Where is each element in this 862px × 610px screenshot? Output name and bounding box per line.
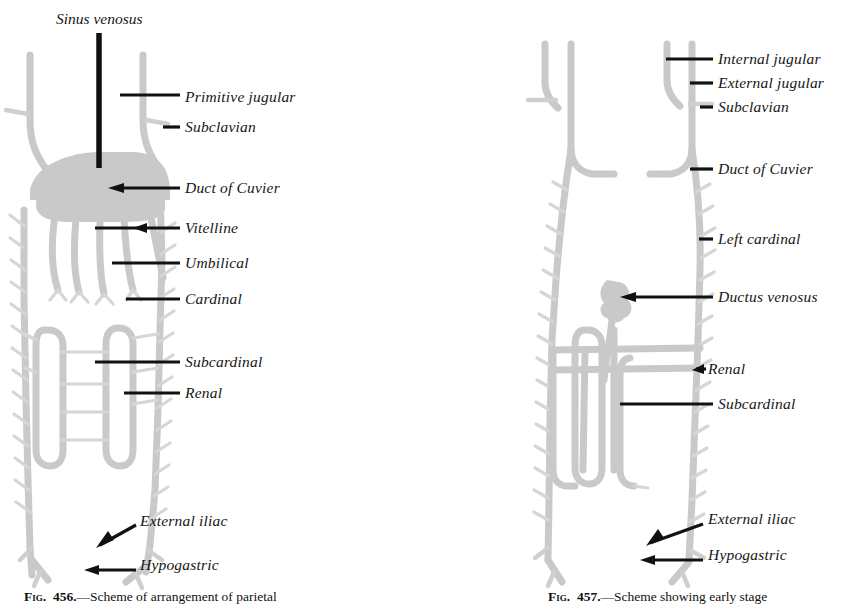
- umbilical-arc-midright: [100, 220, 104, 294]
- label-duct-of-cuvier: Duct of Cuvier: [185, 179, 280, 197]
- caption-fig-457: Fig. 457.—Scheme showing early stage: [548, 589, 767, 605]
- arrowhead-hypogastric-457: [640, 555, 655, 565]
- label-renal: Renal: [185, 384, 222, 402]
- label-primitive-jugular: Primitive jugular: [185, 88, 296, 106]
- hypogastric-right: [136, 574, 142, 588]
- subclavian-right: [146, 120, 168, 124]
- label-hypogastric: Hypogastric: [140, 556, 219, 574]
- arrowhead-hypogastric: [84, 565, 99, 575]
- arrowhead-external-iliac: [96, 531, 114, 548]
- label-duct-of-cuvier-457: Duct of Cuvier: [718, 160, 813, 178]
- vitelline-arc-midleft: [74, 218, 79, 292]
- primitive-jugular-left: [30, 55, 48, 172]
- duct-of-cuvier-right-457: [650, 150, 692, 174]
- label-renal-457: Renal: [708, 360, 745, 378]
- label-ductus-venosus-457: Ductus venosus: [718, 288, 818, 306]
- label-external-iliac: External iliac: [140, 512, 228, 530]
- hypogastric-left-457: [548, 572, 554, 586]
- caption-fig-prefix-457: Fig.: [548, 589, 570, 604]
- label-hypogastric-457: Hypogastric: [708, 546, 787, 564]
- primitive-jugular-right: [143, 55, 160, 170]
- label-umbilical: Umbilical: [185, 254, 249, 272]
- vitelline-arc-left: [52, 215, 58, 290]
- ductus-venosus-blob: [600, 280, 631, 323]
- label-subclavian: Subclavian: [185, 118, 256, 136]
- label-subcardinal: Subcardinal: [185, 353, 262, 371]
- label-external-iliac-457: External iliac: [708, 510, 796, 528]
- subcardinal-vertical-left-457: [583, 350, 585, 470]
- subcardinal-right: [106, 328, 133, 466]
- fig456-vessels: [6, 33, 180, 588]
- caption-fig-text-457: —Scheme showing early stage: [601, 589, 768, 604]
- subcardinal-left: [36, 330, 63, 466]
- label-external-jugular-457: External jugular: [718, 74, 824, 92]
- hypogastric-right-457: [682, 572, 688, 586]
- label-subcardinal-457: Subcardinal: [718, 395, 795, 413]
- subcardinal-anastomoses: [62, 352, 107, 440]
- subclavian-left: [6, 110, 28, 114]
- subcardinal-loop-right-457: [620, 358, 634, 486]
- arrowhead-external-iliac-457: [646, 529, 664, 546]
- label-subclavian-457: Subclavian: [718, 98, 789, 116]
- internal-jugular-right-457: [667, 44, 680, 106]
- caption-fig-prefix-456: Fig.: [24, 589, 46, 604]
- label-cardinal: Cardinal: [185, 290, 242, 308]
- label-left-cardinal-457: Left cardinal: [718, 230, 801, 248]
- caption-fig-text-456: —Scheme of arrangement of parietal: [77, 589, 277, 604]
- caption-fig-number-457: 457.: [577, 589, 601, 604]
- cardinal-left: [24, 210, 32, 575]
- caption-fig-456: Fig. 456.—Scheme of arrangement of parie…: [24, 589, 277, 605]
- figure-page: .v { fill: none; stroke: #c9c9c9; stroke…: [0, 0, 862, 610]
- caption-fig-number-456: 456.: [53, 589, 77, 604]
- arrowhead-vitelline: [133, 223, 147, 233]
- fig457-vessels: [528, 44, 715, 586]
- duct-of-cuvier-left-457: [571, 150, 614, 174]
- label-internal-jugular-457: Internal jugular: [718, 50, 821, 68]
- label-vitelline: Vitelline: [185, 219, 238, 237]
- label-sinus-venosus: Sinus venosus: [56, 10, 143, 28]
